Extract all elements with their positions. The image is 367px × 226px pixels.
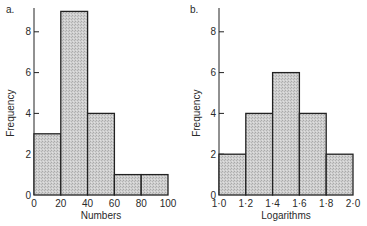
y-tick-label: 8 bbox=[25, 26, 31, 37]
x-tick-label: 100 bbox=[160, 198, 177, 209]
x-tick-label: 1·0 bbox=[212, 198, 227, 209]
histogram-bar bbox=[246, 113, 273, 195]
x-tick-label: 60 bbox=[109, 198, 121, 209]
y-axis-title: Frequency bbox=[5, 90, 16, 137]
y-tick-label: 6 bbox=[210, 67, 216, 78]
x-tick-label: 1·8 bbox=[319, 198, 334, 209]
histogram-bar bbox=[88, 113, 115, 195]
x-axis-title: Logarithms bbox=[261, 210, 310, 221]
histogram-bar bbox=[326, 154, 353, 195]
x-tick-label: 2·0 bbox=[346, 198, 361, 209]
figure: a.02468020406080100NumbersFrequency b.02… bbox=[0, 0, 367, 226]
histogram-panel-b: b.024681·01·21·41·61·82·0LogarithmsFrequ… bbox=[190, 4, 361, 221]
histogram-bar bbox=[114, 175, 141, 195]
histogram-bar bbox=[34, 134, 61, 195]
y-axis-title: Frequency bbox=[191, 90, 202, 137]
histogram-panel-a: a.02468020406080100NumbersFrequency bbox=[5, 4, 177, 221]
y-tick-label: 6 bbox=[25, 67, 31, 78]
histogram-bar bbox=[219, 154, 246, 195]
histogram-bar bbox=[273, 73, 300, 195]
y-tick-label: 4 bbox=[25, 108, 31, 119]
y-tick-label: 8 bbox=[210, 26, 216, 37]
panel-label: a. bbox=[6, 4, 14, 15]
x-axis-title: Numbers bbox=[81, 210, 122, 221]
y-tick-label: 2 bbox=[25, 149, 31, 160]
histogram-bar bbox=[141, 175, 168, 195]
x-tick-label: 1·2 bbox=[239, 198, 254, 209]
histogram-bar bbox=[61, 11, 88, 195]
x-tick-label: 1·6 bbox=[292, 198, 307, 209]
x-tick-label: 40 bbox=[82, 198, 94, 209]
y-tick-label: 2 bbox=[210, 149, 216, 160]
histogram-bar bbox=[299, 113, 326, 195]
x-tick-label: 1·4 bbox=[265, 198, 280, 209]
x-tick-label: 0 bbox=[31, 198, 37, 209]
x-tick-label: 20 bbox=[55, 198, 67, 209]
y-tick-label: 4 bbox=[210, 108, 216, 119]
panel-label: b. bbox=[190, 4, 198, 15]
x-tick-label: 80 bbox=[136, 198, 148, 209]
